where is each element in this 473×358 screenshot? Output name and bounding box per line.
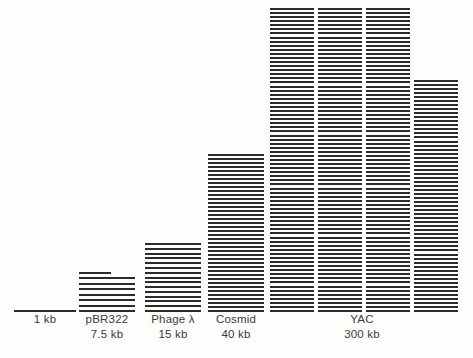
kb-rule [366, 126, 410, 128]
kb-rule [414, 209, 458, 211]
bar-pbr322 [79, 272, 135, 312]
kb-rule [318, 110, 362, 112]
kb-rule [414, 201, 458, 203]
kb-rule [270, 61, 314, 63]
kb-rule [366, 32, 410, 34]
kb-rule [145, 272, 201, 274]
kb-rule [366, 290, 410, 292]
kb-rule [270, 175, 314, 177]
kb-rule [270, 241, 314, 243]
kb-rule [270, 110, 314, 112]
kb-rule [270, 98, 314, 100]
kb-rule [270, 269, 314, 271]
kb-rule [414, 128, 458, 130]
kb-rule [366, 41, 410, 43]
kb-rule [318, 90, 362, 92]
kb-rule [414, 88, 458, 90]
kb-rule [208, 306, 264, 308]
kb-rule [318, 28, 362, 30]
kb-rule [414, 254, 458, 256]
kb-rule [318, 151, 362, 153]
kb-rule [414, 221, 458, 223]
kb-rule [270, 159, 314, 161]
kb-rule [414, 149, 458, 151]
kb-rule [318, 302, 362, 304]
kb-rule [270, 200, 314, 202]
label-cosmid-size: 40 kb [191, 327, 281, 342]
kb-rule [270, 298, 314, 300]
kb-rule [366, 114, 410, 116]
kb-rule [318, 155, 362, 157]
kb-rule [366, 77, 410, 79]
kb-rule [366, 151, 410, 153]
kb-rule [366, 28, 410, 30]
kb-rule [366, 139, 410, 141]
kb-rule [270, 204, 314, 206]
kb-rule [270, 220, 314, 222]
bar-yac-column-4 [414, 80, 458, 312]
kb-rule [414, 141, 458, 143]
kb-rule [318, 61, 362, 63]
kb-rule [318, 220, 362, 222]
kb-rule [318, 281, 362, 283]
kb-rule [414, 80, 458, 82]
kb-rule [270, 273, 314, 275]
kb-rule [366, 294, 410, 296]
kb-rule [366, 241, 410, 243]
kb-rule [208, 194, 264, 196]
kb-rule [270, 57, 314, 59]
kb-rule [270, 135, 314, 137]
kb-rule [318, 65, 362, 67]
label-yac-size: 300 kb [317, 327, 407, 342]
kb-rule [414, 302, 458, 304]
kb-rule [208, 206, 264, 208]
kb-rule [318, 269, 362, 271]
kb-rule [270, 208, 314, 210]
kb-rule [414, 108, 458, 110]
kb-rule [208, 162, 264, 164]
kb-rule [79, 299, 135, 301]
kb-rule [208, 222, 264, 224]
kb-rule [366, 110, 410, 112]
kb-rule [270, 265, 314, 267]
kb-rule [414, 181, 458, 183]
kb-rule [270, 37, 314, 39]
kb-rule [270, 143, 314, 145]
kb-rule [318, 167, 362, 169]
kb-rule [366, 216, 410, 218]
kb-rule [414, 185, 458, 187]
kb-rule [318, 265, 362, 267]
kb-rule [366, 147, 410, 149]
kb-rule [366, 286, 410, 288]
kb-rule [318, 69, 362, 71]
kb-rule [318, 41, 362, 43]
bar-yac-column-1 [270, 8, 314, 312]
kb-rule [366, 86, 410, 88]
kb-rule [366, 302, 410, 304]
kb-rule [79, 305, 135, 307]
kb-rule [270, 171, 314, 173]
kb-rule [366, 277, 410, 279]
kb-rule [270, 77, 314, 79]
kb-rule [414, 298, 458, 300]
label-yac-name: YAC [317, 312, 407, 327]
kb-rule [366, 220, 410, 222]
kb-rule [318, 139, 362, 141]
kb-rule [414, 165, 458, 167]
kb-rule [318, 37, 362, 39]
kb-rule [414, 169, 458, 171]
kb-rule [318, 237, 362, 239]
kb-rule [208, 274, 264, 276]
kb-rule [208, 254, 264, 256]
kb-rule [145, 262, 201, 264]
kb-rule [414, 282, 458, 284]
kb-rule [270, 151, 314, 153]
kb-rule [208, 302, 264, 304]
kb-rule [208, 262, 264, 264]
kb-rule [318, 212, 362, 214]
kb-rule [270, 147, 314, 149]
kb-rule [366, 159, 410, 161]
kb-rule [366, 204, 410, 206]
kb-rule [145, 281, 201, 283]
kb-rule [208, 166, 264, 168]
